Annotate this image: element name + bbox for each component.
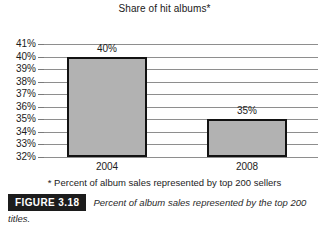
figure-caption: FIGURE 3.18Percent of album sales repres…: [8, 194, 324, 225]
plot-area: [44, 44, 318, 157]
y-axis-tick-label: 32%: [0, 152, 36, 162]
y-axis-tick-label: 34%: [0, 127, 36, 137]
y-axis-tick-label: 35%: [0, 114, 36, 124]
gridline: [44, 157, 318, 158]
y-axis-tick-label: 37%: [0, 89, 36, 99]
bar-value-label: 40%: [67, 43, 147, 54]
y-axis-tick-label: 39%: [0, 64, 36, 74]
chart-footnote: * Percent of album sales represented by …: [0, 177, 329, 188]
bar: [67, 57, 147, 157]
x-axis-tick-label: 2008: [207, 161, 287, 172]
y-axis-tick-label: 41%: [0, 39, 36, 49]
figure-container: Share of hit albums* 41%40%39%38%37%36%3…: [0, 0, 329, 232]
y-axis-tick-label: 36%: [0, 102, 36, 112]
x-axis-tick-label: 2004: [67, 161, 147, 172]
y-axis-tick-label: 38%: [0, 77, 36, 87]
y-axis-tick-label: 40%: [0, 52, 36, 62]
bar: [207, 119, 287, 157]
y-axis-tick-label: 33%: [0, 139, 36, 149]
bar-value-label: 35%: [207, 105, 287, 116]
figure-number-badge: FIGURE 3.18: [8, 194, 86, 211]
chart-title: Share of hit albums*: [0, 3, 329, 14]
